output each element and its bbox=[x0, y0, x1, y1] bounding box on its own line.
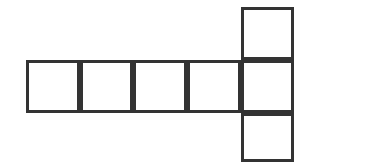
net-square-top bbox=[243, 9, 293, 59]
cube-net-diagram bbox=[0, 0, 390, 165]
net-square-row-5 bbox=[243, 62, 293, 112]
net-square-row-4 bbox=[189, 62, 240, 112]
net-square-row-1 bbox=[28, 62, 79, 112]
net-square-bottom bbox=[243, 115, 293, 161]
net-square-row-3 bbox=[135, 62, 186, 112]
figure-canvas bbox=[0, 0, 390, 165]
net-square-row-2 bbox=[82, 62, 132, 112]
